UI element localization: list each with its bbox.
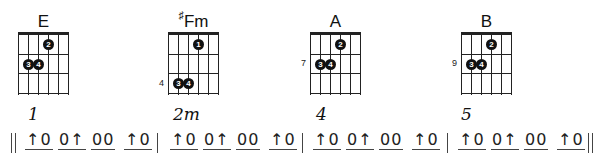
fret-line [18,54,69,55]
finger-dot: 4 [325,59,336,70]
bar-line [157,133,158,153]
double-bar-line [11,133,12,153]
string-line [218,32,219,95]
fret-line [18,93,69,94]
chord-diagram-e: E234 [18,0,98,100]
chord-name: E [18,12,69,32]
fret-line [461,54,512,55]
fret-position-label: 4 [154,78,164,88]
chord-name: B [461,12,512,32]
strum-group: ↑0 [124,132,152,150]
nut-line [461,32,512,35]
strum-group: ↑0 [25,132,53,150]
strum-group: 00 [379,132,403,150]
string-line [58,32,59,95]
measure-chord-number: 4 [316,104,327,124]
sharp-icon: ♯ [178,9,184,21]
chord-name-text: Fm [184,12,209,31]
fret-line [18,73,69,74]
bar-line [302,133,303,153]
string-line [18,32,19,95]
fret-line [168,54,219,55]
fretboard-grid: 1344 [168,32,219,95]
string-line [501,32,502,95]
fretboard-grid: 2347 [310,32,361,95]
string-line [168,32,169,95]
chord-name-text: A [330,12,341,31]
chord-diagram-a: A2347 [310,0,390,100]
nut-line [310,32,361,35]
double-bar-line [588,133,589,153]
chord-diagram-b: B2349 [461,0,541,100]
fret-position-label: 7 [296,58,306,68]
chord-name: A [310,12,361,32]
finger-dot: 4 [33,59,44,70]
strum-group: ↑0 [412,132,440,150]
nut-line [168,32,219,35]
strum-group: 00 [236,132,260,150]
finger-dot: 1 [193,39,204,50]
finger-dot: 2 [43,39,54,50]
double-bar-line [15,133,16,153]
strum-group: 0↑ [203,132,231,150]
finger-dot: 2 [486,39,497,50]
finger-dot: 4 [476,59,487,70]
strum-group: ↑0 [170,132,198,150]
finger-dot: 2 [335,39,346,50]
bar-line [447,133,448,153]
string-line [360,32,361,95]
string-line [68,32,69,95]
fretboard-grid: 2349 [461,32,512,95]
double-bar-line [592,133,593,153]
string-line [310,32,311,95]
fret-line [168,73,219,74]
chord-name-text: B [481,12,492,31]
chord-name-text: E [38,12,49,31]
chord-name: ♯Fm [168,12,219,32]
fret-line [168,93,219,94]
strum-group: ↑0 [269,132,297,150]
strum-group: 0↑ [58,132,86,150]
finger-dot: 4 [183,78,194,89]
string-line [350,32,351,95]
string-line [461,32,462,95]
strum-group: 00 [524,132,548,150]
strum-group: ↑0 [557,132,585,150]
strum-group: 00 [91,132,115,150]
fret-line [310,54,361,55]
strum-group: ↑0 [313,132,341,150]
strum-group: ↑0 [458,132,486,150]
strum-group: 0↑ [346,132,374,150]
fret-line [461,73,512,74]
fret-line [310,73,361,74]
fret-line [461,93,512,94]
string-line [208,32,209,95]
measure-chord-number: 5 [461,104,472,124]
fret-position-label: 9 [447,58,457,68]
fret-line [310,93,361,94]
fretboard-grid: 234 [18,32,69,95]
measure-chord-number: 2m [173,104,200,124]
strum-pattern-row: 1↑00↑00↑02m↑00↑00↑04↑00↑00↑05↑00↑00↑0 [0,100,604,160]
string-line [511,32,512,95]
strum-group: 0↑ [491,132,519,150]
nut-line [18,32,69,35]
measure-chord-number: 1 [28,104,39,124]
chord-diagram-sharp-fm: ♯Fm1344 [168,0,248,100]
